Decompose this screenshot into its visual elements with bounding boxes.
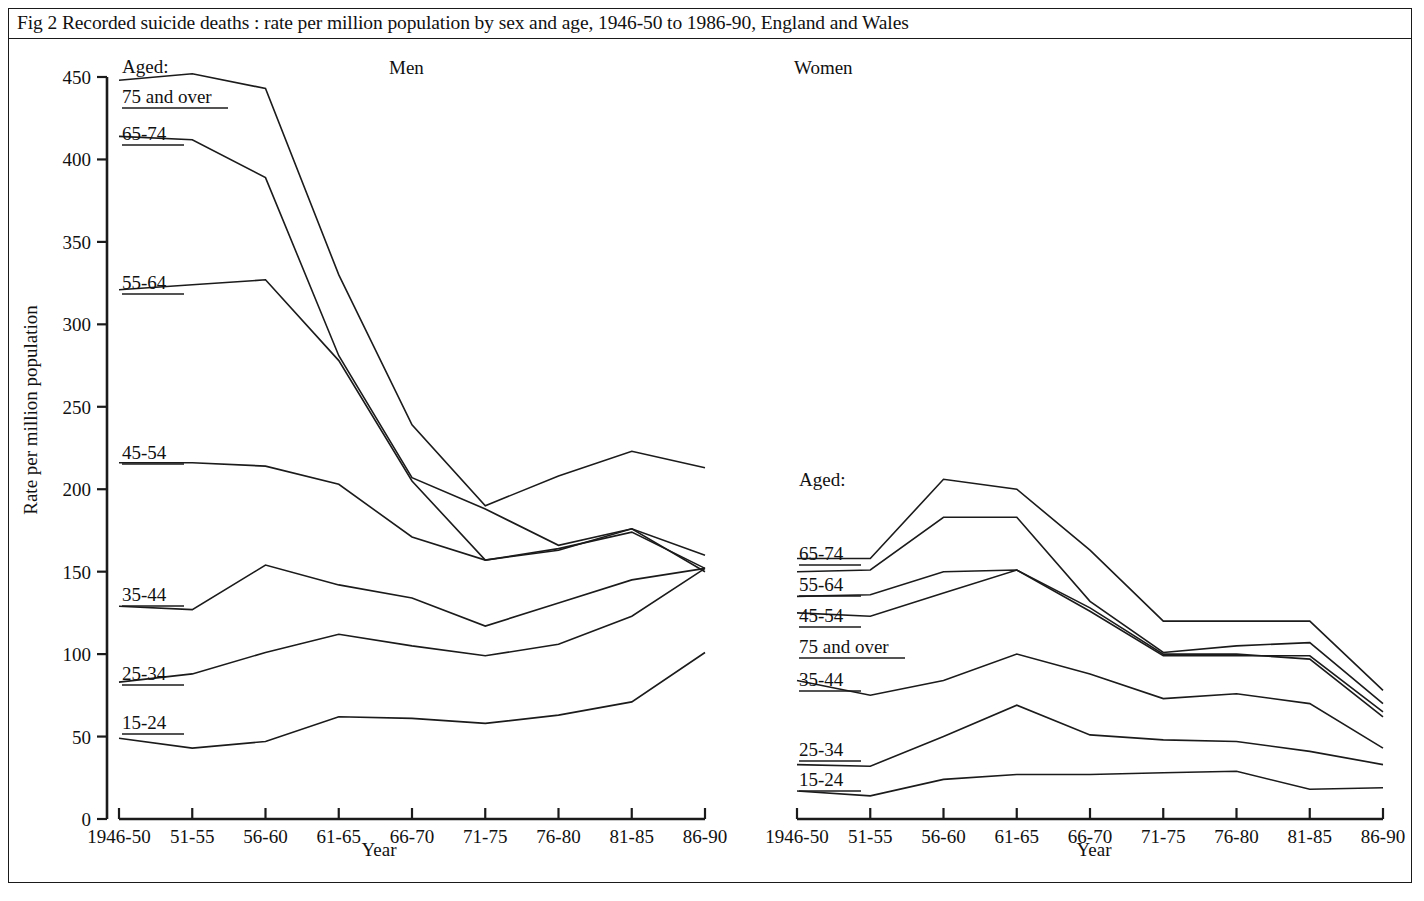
x-tick-label: 86-90 [683, 826, 727, 847]
series-labels: 65-7455-6445-5475 and over35-4425-3415-2… [799, 469, 905, 791]
series-line-55-64 [119, 280, 705, 560]
series-line-35-44 [797, 654, 1383, 748]
series-label: 25-34 [799, 739, 844, 760]
y-axis: 050100150200250300350400450 [63, 67, 108, 830]
x-axis: 1946-5051-5556-6061-6566-7071-7576-8081-… [765, 808, 1405, 847]
figure-container: Fig 2 Recorded suicide deaths : rate per… [8, 8, 1412, 883]
x-axis: 1946-5051-5556-6061-6566-7071-7576-8081-… [87, 808, 727, 847]
chart-women: 1946-5051-5556-6061-6566-7071-7576-8081-… [749, 39, 1413, 884]
series-line-15-24 [797, 771, 1383, 796]
series-label: 55-64 [799, 574, 844, 595]
x-tick-label: 71-75 [1141, 826, 1185, 847]
y-tick-label: 400 [63, 149, 92, 170]
x-tick-label: 76-80 [536, 826, 580, 847]
series-line-35-44 [119, 565, 705, 626]
x-tick-label: 51-55 [848, 826, 892, 847]
series-label: 65-74 [799, 543, 844, 564]
y-tick-label: 450 [63, 67, 92, 88]
figure-caption: Fig 2 Recorded suicide deaths : rate per… [9, 9, 1411, 39]
x-tick-label: 61-65 [317, 826, 361, 847]
y-tick-label: 350 [63, 232, 92, 253]
series-label: 65-74 [122, 123, 167, 144]
series-label: 55-64 [122, 272, 167, 293]
x-tick-label: 1946-50 [87, 826, 150, 847]
x-tick-label: 56-60 [243, 826, 287, 847]
y-tick-label: 100 [63, 644, 92, 665]
series-label: 45-54 [799, 605, 844, 626]
x-tick-label: 66-70 [1068, 826, 1112, 847]
y-tick-label: 250 [63, 397, 92, 418]
y-tick-label: 150 [63, 562, 92, 583]
series-label: 45-54 [122, 442, 167, 463]
legend-heading: Aged: [122, 56, 168, 77]
series-line-75-and-over [119, 74, 705, 506]
panel-men: Men Rate per million population Year 050… [9, 39, 749, 884]
x-tick-label: 61-65 [995, 826, 1039, 847]
x-tick-label: 81-85 [610, 826, 654, 847]
series-label: 25-34 [122, 663, 167, 684]
series-line-45-54 [119, 463, 705, 569]
panel-women: Women Year 1946-5051-5556-6061-6566-7071… [749, 39, 1413, 884]
series-label: 15-24 [122, 712, 167, 733]
series-label: 75 and over [122, 86, 212, 107]
x-tick-label: 86-90 [1361, 826, 1405, 847]
y-tick-label: 300 [63, 314, 92, 335]
series-label: 35-44 [122, 584, 167, 605]
series-line-25-34 [119, 568, 705, 682]
series-label: 75 and over [799, 636, 889, 657]
y-tick-label: 200 [63, 479, 92, 500]
x-tick-label: 1946-50 [765, 826, 828, 847]
x-tick-label: 71-75 [463, 826, 507, 847]
series-line-15-24 [119, 653, 705, 749]
series-label: 35-44 [799, 669, 844, 690]
series-group [119, 74, 705, 748]
x-tick-label: 56-60 [921, 826, 965, 847]
x-tick-label: 51-55 [170, 826, 214, 847]
series-line-25-34 [797, 705, 1383, 766]
legend-heading: Aged: [799, 469, 845, 490]
x-tick-label: 81-85 [1288, 826, 1332, 847]
chart-men: 0501001502002503003504004501946-5051-555… [9, 39, 749, 884]
x-tick-label: 76-80 [1214, 826, 1258, 847]
series-labels: 75 and over65-7455-6445-5435-4425-3415-2… [122, 56, 228, 734]
series-line-65-74 [119, 136, 705, 571]
y-tick-label: 50 [72, 727, 91, 748]
x-tick-label: 66-70 [390, 826, 434, 847]
series-label: 15-24 [799, 769, 844, 790]
